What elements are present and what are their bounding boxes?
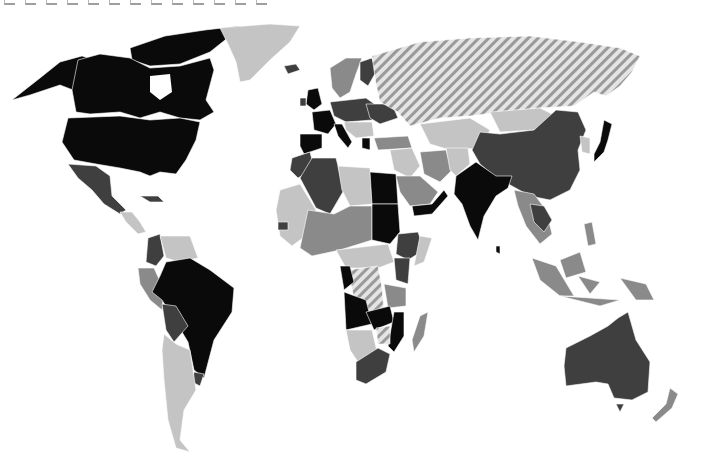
region-middle-east <box>390 148 420 178</box>
south-america <box>138 234 234 452</box>
world-choropleth-map <box>0 0 702 459</box>
region-mexico <box>68 164 126 214</box>
region-zimbabwe <box>376 326 390 344</box>
region-iceland <box>284 64 300 74</box>
region-senegal <box>278 222 288 230</box>
region-turkey <box>374 136 412 150</box>
region-philippines <box>584 222 596 246</box>
region-sri-lanka <box>496 246 500 254</box>
region-madagascar <box>412 312 428 352</box>
oceania <box>564 312 678 422</box>
region-saudi-arabia <box>396 176 438 206</box>
region-cuba <box>140 196 164 202</box>
region-papua-new-guinea <box>620 278 654 300</box>
region-new-zealand <box>652 388 678 422</box>
region-venezuela <box>160 236 198 262</box>
region-central-america <box>120 212 146 234</box>
region-spain <box>300 134 322 154</box>
region-sudan <box>372 204 400 244</box>
region-tasmania <box>616 404 624 412</box>
region-libya <box>338 166 372 206</box>
region-ireland <box>300 98 306 106</box>
region-australia <box>564 312 650 400</box>
region-france <box>312 110 336 134</box>
region-indonesia <box>532 252 620 306</box>
region-kenya <box>394 258 410 284</box>
region-scandinavia <box>330 58 362 98</box>
region-tanzania <box>384 284 406 308</box>
region-greece <box>362 138 370 150</box>
region-japan <box>594 120 612 162</box>
region-united-kingdom <box>306 88 322 110</box>
north-america <box>12 24 300 234</box>
region-egypt <box>370 172 398 204</box>
region-korea <box>580 136 590 154</box>
